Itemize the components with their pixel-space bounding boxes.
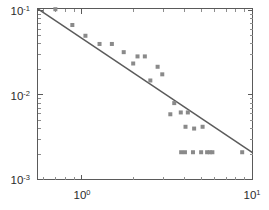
data-point-marker	[83, 34, 87, 38]
x-tick-label-1e1: 101	[244, 188, 261, 201]
y-tick-exponent: -1	[23, 4, 30, 13]
power-law-fit-line	[38, 9, 253, 153]
plot-frame	[38, 9, 253, 180]
data-point-marker	[184, 125, 188, 129]
data-point-marker	[199, 150, 203, 154]
data-point-marker	[192, 127, 196, 131]
data-point-marker	[136, 54, 140, 58]
data-point-marker	[191, 150, 195, 154]
data-point-marker	[201, 125, 205, 129]
y-tick-label-1e-3: 10-3	[11, 173, 30, 186]
data-point-marker	[131, 62, 135, 66]
data-point-marker	[160, 72, 164, 76]
data-point-marker	[186, 110, 190, 114]
y-tick-exponent: -3	[23, 173, 30, 182]
y-tick-label-1e-2: 10-2	[11, 89, 30, 102]
data-point-marker	[98, 42, 102, 46]
y-axis-tick-labels: 10-1 10-2 10-3	[11, 4, 30, 186]
x-axis-tick-labels: 100 101	[74, 188, 261, 201]
data-point-marker	[240, 150, 244, 154]
axis-ticks	[38, 9, 253, 180]
y-tick-mantissa: 10	[11, 5, 24, 17]
y-tick-exponent: -2	[23, 89, 30, 98]
data-point-marker	[70, 23, 74, 27]
data-point-marker	[168, 112, 172, 116]
x-tick-mantissa: 10	[74, 189, 87, 201]
x-tick-exponent: 1	[256, 188, 260, 197]
data-point-marker	[172, 101, 176, 105]
data-point-marker	[148, 78, 152, 82]
data-point-marker	[53, 7, 57, 11]
data-point-marker	[156, 65, 160, 69]
x-tick-mantissa: 10	[244, 189, 257, 201]
data-point-marker	[183, 150, 187, 154]
x-tick-label-1e0: 100	[74, 188, 91, 201]
scatter-markers	[53, 7, 244, 154]
data-point-marker	[110, 42, 114, 46]
data-point-marker	[210, 150, 214, 154]
y-tick-mantissa: 10	[11, 90, 24, 102]
log-log-scatter-plot: 10-1 10-2 10-3 100 101	[0, 0, 269, 210]
data-point-marker	[143, 54, 147, 58]
fit-line-path	[38, 9, 253, 153]
figure-container: 10-1 10-2 10-3 100 101	[0, 0, 269, 210]
x-tick-exponent: 0	[86, 188, 90, 197]
data-point-marker	[179, 150, 183, 154]
data-point-marker	[122, 50, 126, 54]
y-tick-label-1e-1: 10-1	[11, 4, 30, 17]
y-tick-mantissa: 10	[11, 174, 24, 186]
data-point-marker	[179, 110, 183, 114]
